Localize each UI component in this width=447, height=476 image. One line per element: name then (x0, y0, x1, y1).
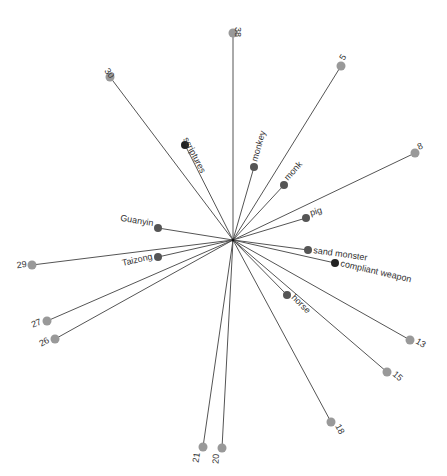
node-label-20: 20 (210, 454, 221, 465)
node-label-horse: horse (290, 292, 313, 315)
node-monk[interactable] (280, 181, 288, 189)
node-18[interactable] (327, 418, 336, 427)
node-sand-monster[interactable] (304, 246, 312, 254)
network-graph: 383058scripturesmonkeymonkpigGuanyinTaiz… (0, 0, 447, 476)
edge-guanyin (158, 228, 233, 240)
node-label-compliant-weapon: compliant weapon (340, 258, 413, 284)
edge-27 (47, 240, 233, 321)
node-label-pig: pig (309, 205, 323, 218)
node-monkey[interactable] (250, 163, 258, 171)
node-label-27: 27 (30, 317, 43, 330)
node-label-guanyin: Guanyin (120, 213, 155, 228)
node-label-scriptures: scriptures (181, 135, 208, 175)
node-label-5: 5 (337, 53, 348, 63)
node-pig[interactable] (302, 214, 310, 222)
node-label-38: 38 (233, 27, 243, 37)
node-label-29: 29 (16, 259, 27, 270)
node-26[interactable] (51, 335, 60, 344)
edge-taizong (158, 240, 233, 257)
node-guanyin[interactable] (154, 224, 162, 232)
node-horse[interactable] (283, 291, 291, 299)
node-label-21: 21 (191, 452, 202, 463)
node-label-18: 18 (333, 422, 347, 436)
nodes-layer (28, 29, 420, 453)
edge-21 (203, 240, 233, 447)
node-29[interactable] (28, 261, 37, 270)
edge-20 (222, 240, 233, 448)
node-label-monk: monk (282, 159, 304, 182)
node-13[interactable] (406, 336, 415, 345)
node-taizong[interactable] (154, 253, 162, 261)
node-label-13: 13 (414, 336, 428, 350)
node-5[interactable] (337, 62, 346, 71)
node-compliant-weapon[interactable] (331, 259, 339, 267)
node-27[interactable] (43, 317, 52, 326)
hub-node (232, 239, 235, 242)
node-label-monkey: monkey (249, 129, 267, 163)
node-15[interactable] (383, 368, 392, 377)
edge-pig (233, 218, 306, 240)
node-label-15: 15 (391, 369, 405, 383)
labels-layer: 383058scripturesmonkeymonkpigGuanyinTaiz… (16, 27, 428, 464)
node-20[interactable] (218, 444, 227, 453)
edges-layer (32, 33, 415, 448)
node-label-26: 26 (37, 335, 51, 349)
edge-horse (233, 240, 287, 295)
node-21[interactable] (199, 443, 208, 452)
